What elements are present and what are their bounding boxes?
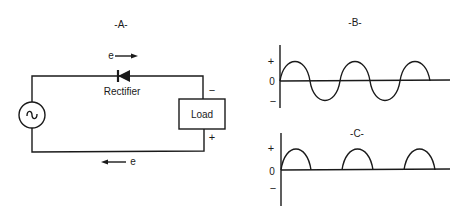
waveform-figure-c: -C- + 0 − (268, 128, 450, 206)
load-positive-polarity: + (209, 131, 215, 143)
c-plus-label: + (268, 142, 274, 154)
figure-a-label: -A- (114, 19, 127, 30)
circuit-figure-a: -A- e Rectifier Load − + e (19, 19, 225, 167)
bottom-current-label: e (130, 156, 136, 167)
b-zero-label: 0 (269, 76, 275, 87)
rectifier-label: Rectifier (104, 86, 141, 97)
diode-icon (118, 70, 130, 82)
c-x-axis (281, 169, 450, 170)
b-x-axis (280, 80, 450, 81)
load-negative-polarity: − (209, 84, 215, 96)
figure-c-label: -C- (350, 128, 364, 139)
rectifier-diagram: -A- e Rectifier Load − + e (0, 0, 460, 220)
c-zero-label: 0 (269, 166, 275, 177)
figure-b-label: -B- (348, 17, 361, 28)
c-minus-label: − (270, 182, 276, 194)
top-current-label: e (108, 50, 114, 61)
right-arrow-icon (115, 54, 138, 59)
b-plus-label: + (268, 55, 274, 67)
b-minus-label: − (270, 95, 276, 107)
left-arrow-icon (101, 160, 126, 165)
waveform-figure-b: -B- + 0 − (268, 17, 450, 108)
bottom-wire (32, 128, 204, 152)
load-label: Load (191, 109, 213, 120)
ac-source-icon (19, 102, 45, 128)
c-rectified-curve (281, 149, 435, 170)
